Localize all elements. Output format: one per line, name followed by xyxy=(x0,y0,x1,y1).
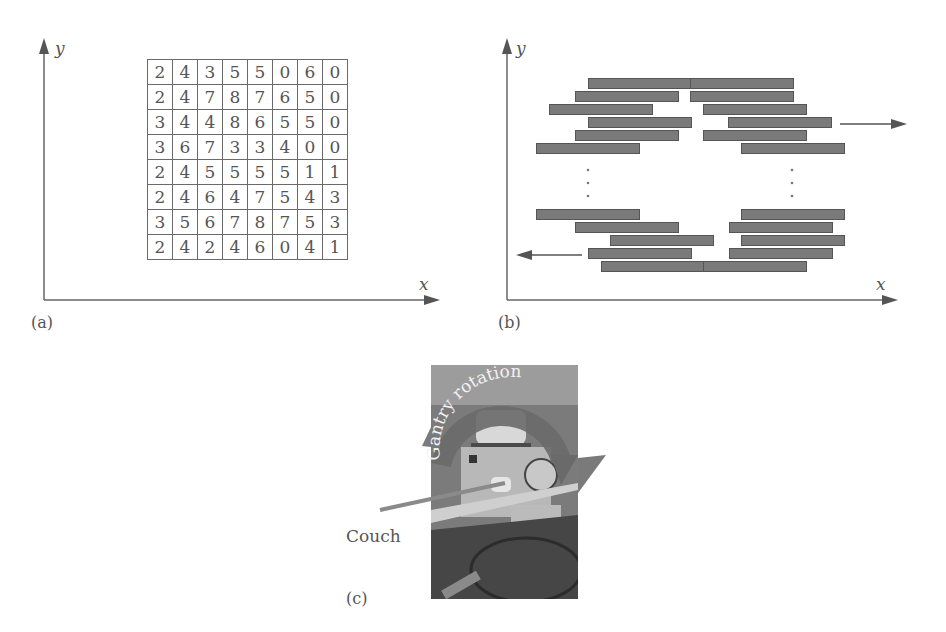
mlc-leaf-left xyxy=(588,248,692,259)
couch-label: Couch xyxy=(346,526,401,546)
panel-label-b: (b) xyxy=(498,313,521,332)
mlc-leaf-left xyxy=(536,209,640,220)
mlc-leaf-left xyxy=(549,104,653,115)
mlc-leaf-right xyxy=(703,104,807,115)
mlc-leaf-right xyxy=(690,91,794,102)
mlc-leaf-right xyxy=(703,261,807,272)
mlc-leaf-right xyxy=(741,209,845,220)
mlc-leaf-left xyxy=(601,261,705,272)
panel-label-c: (c) xyxy=(346,589,367,608)
mlc-leaf-right xyxy=(728,117,832,128)
mlc-leaf-right xyxy=(703,130,807,141)
svg-text:Gantry rotation: Gantry rotation xyxy=(423,361,522,461)
mlc-leaf-left xyxy=(575,130,679,141)
gantry-rotation-label: Gantry rotation xyxy=(400,360,620,480)
mlc-leaf-left xyxy=(588,78,692,89)
mlc-leaf-left xyxy=(536,143,640,154)
mlc-leaf-left xyxy=(588,117,692,128)
mlc-leaf-left xyxy=(575,91,679,102)
x-axis-label-b: x xyxy=(876,274,886,294)
mlc-leaf-left xyxy=(575,222,679,233)
mlc-leaf-right xyxy=(741,235,845,246)
mlc-leaf-right xyxy=(729,222,833,233)
mlc-leaf-right xyxy=(741,143,845,154)
axes-b xyxy=(0,0,946,320)
mlc-leaf-left xyxy=(610,235,714,246)
y-axis-label-b: y xyxy=(516,38,526,58)
couch-pointer xyxy=(370,480,510,520)
mlc-leaf-right xyxy=(690,78,794,89)
mlc-leaf-right xyxy=(729,248,833,259)
